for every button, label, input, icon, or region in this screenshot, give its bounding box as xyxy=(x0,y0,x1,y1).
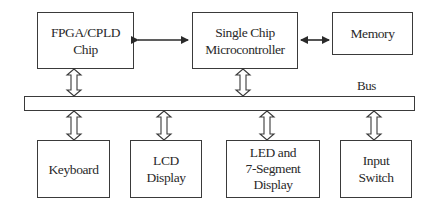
input-switch-label: Input Switch xyxy=(358,152,393,186)
input-switch-block: Input Switch xyxy=(340,140,412,198)
memory-block: Memory xyxy=(332,12,413,55)
lcd-display-label: LCD Display xyxy=(146,152,185,186)
arrow-mcu-bus xyxy=(236,69,250,96)
keyboard-block: Keyboard xyxy=(37,140,110,198)
microcontroller-block: Single Chip Microcontroller xyxy=(192,12,298,69)
lcd-display-block: LCD Display xyxy=(130,140,202,198)
microcontroller-label: Single Chip Microcontroller xyxy=(205,24,284,58)
fpga-cpld-chip-block: FPGA/CPLD Chip xyxy=(37,12,134,69)
led-7segment-display-label: LED and 7-Segment Display xyxy=(246,145,301,193)
fpga-cpld-chip-label: FPGA/CPLD Chip xyxy=(51,24,120,58)
bus-label: Bus xyxy=(357,78,376,94)
arrow-bus-keyboard xyxy=(67,111,81,140)
arrow-bus-input xyxy=(367,111,381,140)
keyboard-label: Keyboard xyxy=(48,161,98,178)
arrow-bus-lcd xyxy=(157,111,171,140)
memory-label: Memory xyxy=(350,25,394,42)
led-7segment-display-block: LED and 7-Segment Display xyxy=(226,140,320,198)
bus-bar xyxy=(24,96,415,111)
arrow-bus-led xyxy=(260,111,274,140)
arrow-fpga-bus xyxy=(67,69,81,96)
